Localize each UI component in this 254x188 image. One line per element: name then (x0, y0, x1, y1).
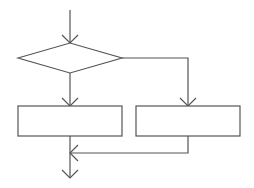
entry-arrow (62, 10, 78, 43)
decision-diamond (18, 43, 122, 73)
flowchart-svg (0, 0, 254, 188)
process-box-right (136, 106, 240, 136)
merge-arrow (70, 136, 188, 161)
branch-right-arrow (122, 58, 196, 106)
exit-arrow (62, 136, 78, 178)
flowchart-canvas (0, 0, 254, 188)
branch-left-arrow (62, 73, 78, 106)
process-box-left (18, 106, 122, 136)
